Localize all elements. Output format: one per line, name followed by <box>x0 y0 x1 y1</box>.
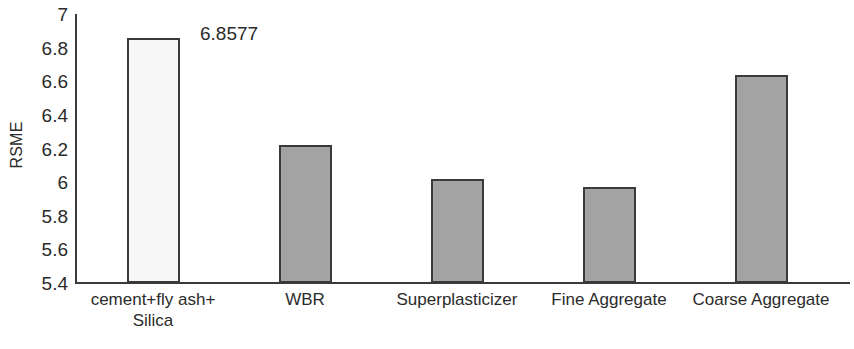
x-axis-category-label: Coarse Aggregate <box>685 289 837 310</box>
plot-area: 6.8577cement+fly ash+SilicaWBRSuperplast… <box>0 0 854 349</box>
x-axis-category-label-line: WBR <box>229 289 381 310</box>
x-axis-category-label: Fine Aggregate <box>533 289 685 310</box>
x-axis-category-label-line: cement+fly ash+ <box>77 289 229 310</box>
bar-value-label: 6.8577 <box>200 24 258 43</box>
x-axis-category-label: Superplasticizer <box>381 289 533 310</box>
x-axis-category-label: WBR <box>229 289 381 310</box>
bar <box>431 179 484 283</box>
bar <box>583 187 636 283</box>
bar <box>735 75 788 283</box>
x-axis-category-label-line: Superplasticizer <box>381 289 533 310</box>
bar <box>127 38 180 283</box>
x-axis-category-label: cement+fly ash+Silica <box>77 289 229 331</box>
bar <box>279 145 332 283</box>
x-axis-category-label-line: Silica <box>77 310 229 331</box>
x-axis-category-label-line: Coarse Aggregate <box>685 289 837 310</box>
bar-chart: RSME 76.86.66.46.265.85.65.4 6.8577cemen… <box>0 0 854 349</box>
x-axis-category-label-line: Fine Aggregate <box>533 289 685 310</box>
